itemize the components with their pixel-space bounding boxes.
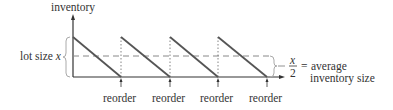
reorder-label-1: reorder (103, 93, 136, 105)
sawtooth-line (73, 37, 267, 77)
lot-size-brace-icon (63, 37, 70, 77)
lot-size-label: lot size x (20, 51, 61, 63)
equals-sign: = (301, 61, 308, 73)
fraction-denominator: 2 (290, 68, 296, 80)
reorder-label-2: reorder (152, 93, 185, 105)
reorder-guides (121, 37, 218, 77)
lot-size-variable: x (56, 50, 61, 62)
average-label-line2: inventory size (310, 73, 375, 85)
axes (71, 14, 285, 79)
y-axis-arrow-icon (71, 14, 75, 20)
reorder-label-4: reorder (249, 93, 282, 105)
lot-size-text: lot size (20, 50, 53, 62)
reorder-arrows (120, 78, 269, 87)
x-axis-arrow-icon (279, 75, 285, 79)
fraction-numerator: x (290, 55, 295, 67)
reorder-label-3: reorder (200, 93, 233, 105)
average-brace-icon (270, 56, 277, 77)
inventory-sawtooth-diagram: inventory lot size x x 2 = average inven… (0, 0, 393, 110)
average-label-line1: average (311, 61, 347, 73)
y-axis-label: inventory (51, 2, 95, 14)
